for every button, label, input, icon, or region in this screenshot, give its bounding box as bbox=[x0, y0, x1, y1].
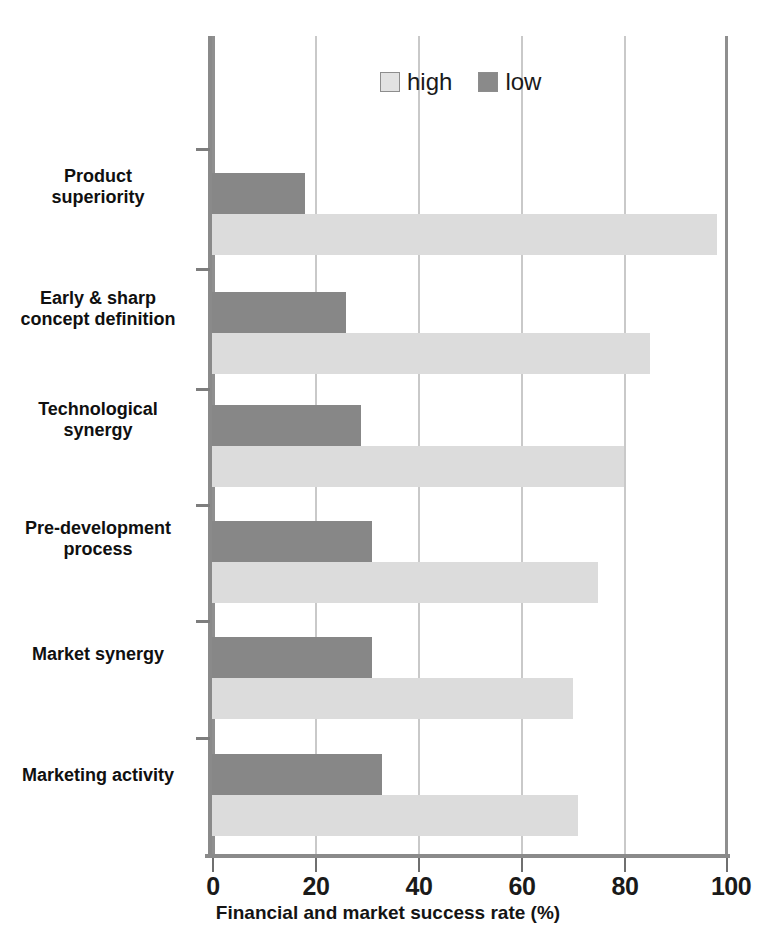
category-label-technological-synergy: Technological synergy bbox=[0, 399, 196, 441]
category-label-market-synergy: Market synergy bbox=[0, 644, 196, 665]
bar-low-marketing-activity bbox=[212, 754, 382, 795]
bar-low-early-sharp-concept-definition bbox=[212, 292, 346, 333]
x-tick-label-0: 0 bbox=[206, 872, 219, 901]
x-tick-label-100: 100 bbox=[711, 872, 751, 901]
category-label-line: Early & sharp bbox=[0, 288, 196, 309]
x-tick-mark-80 bbox=[624, 858, 626, 872]
x-tick-label-20: 20 bbox=[303, 872, 330, 901]
bar-low-pre-development-process bbox=[212, 521, 372, 562]
legend-swatch-high-icon bbox=[380, 72, 400, 92]
bar-chart: high low Product superiority Early & sha… bbox=[0, 0, 776, 934]
x-tick-mark-40 bbox=[418, 858, 420, 872]
y-tick-3 bbox=[196, 388, 210, 391]
legend-label-low: low bbox=[505, 68, 541, 96]
bar-high-technological-synergy bbox=[212, 446, 624, 487]
legend-label-high: high bbox=[407, 68, 452, 96]
category-label-line: synergy bbox=[0, 420, 196, 441]
category-label-line: Pre-development bbox=[0, 518, 196, 539]
bar-low-market-synergy bbox=[212, 637, 372, 678]
y-tick-2 bbox=[196, 268, 210, 271]
bar-high-pre-development-process bbox=[212, 562, 598, 603]
chart-legend: high low bbox=[380, 68, 541, 96]
x-tick-mark-60 bbox=[521, 858, 523, 872]
x-tick-label-40: 40 bbox=[406, 872, 433, 901]
gridline-100 bbox=[725, 36, 728, 856]
category-label-early-sharp-concept-definition: Early & sharp concept definition bbox=[0, 288, 196, 330]
category-label-line: superiority bbox=[0, 187, 196, 208]
category-label-product-superiority: Product superiority bbox=[0, 166, 196, 208]
legend-swatch-low-icon bbox=[478, 72, 498, 92]
gridline-80 bbox=[624, 36, 626, 856]
y-tick-4 bbox=[196, 504, 210, 507]
x-tick-label-60: 60 bbox=[509, 872, 536, 901]
x-tick-mark-100 bbox=[726, 858, 728, 872]
y-tick-5 bbox=[196, 620, 210, 623]
bar-high-marketing-activity bbox=[212, 795, 578, 836]
category-label-line: Technological bbox=[0, 399, 196, 420]
bar-low-product-superiority bbox=[212, 173, 305, 214]
bar-high-product-superiority bbox=[212, 214, 717, 255]
legend-item-low: low bbox=[478, 68, 541, 96]
category-label-line: Product bbox=[0, 166, 196, 187]
y-tick-1 bbox=[196, 148, 210, 151]
x-tick-mark-0 bbox=[212, 858, 214, 872]
legend-item-high: high bbox=[380, 68, 452, 96]
bar-high-market-synergy bbox=[212, 678, 573, 719]
x-tick-label-80: 80 bbox=[612, 872, 639, 901]
category-label-marketing-activity: Marketing activity bbox=[0, 765, 196, 786]
category-label-line: concept definition bbox=[0, 309, 196, 330]
x-axis-line bbox=[205, 854, 730, 858]
category-label-line: process bbox=[0, 539, 196, 560]
category-label-line: Market synergy bbox=[0, 644, 196, 665]
bar-high-early-sharp-concept-definition bbox=[212, 333, 650, 374]
y-tick-6 bbox=[196, 737, 210, 740]
x-axis-title: Financial and market success rate (%) bbox=[0, 902, 776, 924]
x-tick-mark-20 bbox=[315, 858, 317, 872]
category-label-pre-development-process: Pre-development process bbox=[0, 518, 196, 560]
category-label-line: Marketing activity bbox=[0, 765, 196, 786]
bar-low-technological-synergy bbox=[212, 405, 361, 446]
